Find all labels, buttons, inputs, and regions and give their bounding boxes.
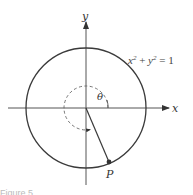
- radius-to-P: [86, 108, 109, 162]
- unit-circle-figure: y x θ P x2 + y2 = 1: [0, 0, 193, 195]
- figure-caption: Figure 5: [0, 188, 33, 195]
- circle-equation: x2 + y2 = 1: [127, 54, 174, 66]
- theta-label: θ: [97, 91, 103, 102]
- y-axis-label: y: [81, 10, 89, 23]
- x-axis-label: x: [172, 102, 179, 115]
- point-P-label: P: [105, 168, 114, 181]
- point-P-marker: [107, 160, 112, 165]
